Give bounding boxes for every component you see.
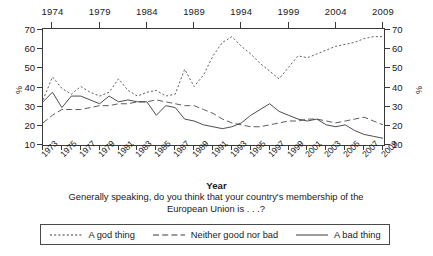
y-axis-label-left: 60: [24, 43, 35, 54]
y-axis-tick-left: [37, 67, 42, 68]
y-axis-label-left: 10: [24, 139, 35, 150]
y-axis-tick-right: [385, 87, 390, 88]
top-axis-label: 1974: [41, 6, 63, 17]
y-axis-label-left: 50: [24, 62, 35, 73]
y-axis-title-right: %: [414, 86, 424, 94]
plot-area: [42, 28, 385, 146]
series-line-0: [43, 37, 383, 100]
top-axis-label: 1999: [278, 6, 300, 17]
series-line-2: [43, 92, 383, 138]
y-axis-tick-left: [37, 106, 42, 107]
y-axis-tick-left: [37, 87, 42, 88]
chart-legend: A god thingNeither good nor badA bad thi…: [40, 224, 390, 245]
legend-swatch-dashed-icon: [152, 231, 186, 239]
y-axis-tick-right: [385, 67, 390, 68]
legend-item-2[interactable]: A bad thing: [295, 230, 381, 240]
y-axis-tick-right: [385, 29, 390, 30]
y-axis-tick-left: [37, 29, 42, 30]
y-axis-tick-right: [385, 48, 390, 49]
y-axis-label-right: 60: [392, 43, 403, 54]
y-axis-label-right: 70: [392, 24, 403, 35]
legend-label: A bad thing: [334, 230, 381, 240]
y-axis-label-left: 30: [24, 100, 35, 111]
legend-label: A god thing: [88, 230, 135, 240]
top-axis-label: 2009: [372, 6, 394, 17]
y-axis-tick-left: [37, 144, 42, 145]
y-axis-label-left: 70: [24, 24, 35, 35]
legend-item-1[interactable]: Neither good nor bad: [152, 230, 278, 240]
y-axis-label-left: 40: [24, 81, 35, 92]
chart-figure: 19741979198419891994199920042009 1010202…: [0, 0, 433, 256]
chart-question-caption: Generally speaking, do you think that yo…: [66, 191, 366, 214]
series-line-1: [43, 100, 383, 127]
legend-label: Neither good nor bad: [191, 230, 278, 240]
y-axis-tick-right: [385, 106, 390, 107]
y-axis-tick-left: [37, 125, 42, 126]
y-axis-label-right: 40: [392, 81, 403, 92]
x-axis-title: Year: [0, 180, 433, 191]
legend-swatch-solid-icon: [295, 231, 329, 239]
y-axis-tick-right: [385, 125, 390, 126]
y-axis-label-right: 50: [392, 62, 403, 73]
top-axis-label: 2004: [325, 6, 347, 17]
legend-swatch-dotted-icon: [49, 231, 83, 239]
y-axis-title-left: %: [14, 86, 24, 94]
top-axis-label: 1994: [230, 6, 252, 17]
legend-item-0[interactable]: A god thing: [49, 230, 135, 240]
y-axis-label-right: 30: [392, 100, 403, 111]
y-axis-label-left: 20: [24, 119, 35, 130]
top-axis-label: 1979: [89, 6, 111, 17]
y-axis-tick-left: [37, 48, 42, 49]
top-axis-label: 1984: [136, 6, 158, 17]
series-canvas: [43, 29, 384, 145]
top-axis-label: 1989: [183, 6, 205, 17]
y-axis-label-right: 20: [392, 119, 403, 130]
